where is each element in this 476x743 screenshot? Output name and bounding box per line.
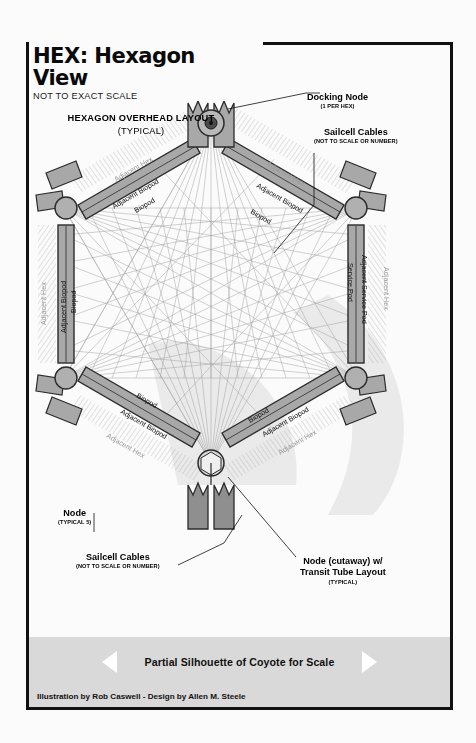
arm-label: Adjacent Service Pod [360,255,369,324]
credit-bar: Illustration by Rob Caswell - Design by … [29,686,450,707]
callout-qualifier: (NOT TO SCALE OR NUMBER) [314,138,398,145]
triangle-right-icon [362,651,377,673]
node-upper-left [36,161,82,219]
arm-label: Biopod [69,291,78,313]
illustration-sheet: Adjacent Hex Adjacent Biopod Biopod Adja… [0,0,476,743]
arm-label: Adjacent Biopod [59,281,68,333]
frame-bottom-rule [26,707,453,710]
triangle-left-icon [102,651,117,673]
callout-title: Node [58,508,91,519]
layout-caption-line2: (TYPICAL) [46,125,236,138]
page-subtitle: NOT TO EXACT SCALE [33,91,263,101]
callout-docking-node: Docking Node (1 PER HEX) [307,92,368,110]
scale-band: Partial Silhouette of Coyote for Scale [29,637,450,686]
callout-node: Node (TYPICAL 5) [58,508,91,526]
title-block: HEX: Hexagon View NOT TO EXACT SCALE [33,42,263,101]
arm-label: Adjacent Hex [39,282,48,325]
layout-caption: HEXAGON OVERHEAD LAYOUT (TYPICAL) [46,112,236,137]
callout-cutaway-node: Node (cutaway) w/ Transit Tube Layout (T… [300,556,386,586]
credit-text: Illustration by Rob Caswell - Design by … [29,692,245,701]
callout-qualifier: (1 PER HEX) [307,103,368,110]
node-lower-left [36,367,82,425]
callout-sailcell-cables-bottom: Sailcell Cables (NOT TO SCALE OR NUMBER) [76,552,160,570]
callout-title2: Transit Tube Layout [300,567,386,578]
arm-label: Service Pod [346,263,355,302]
callout-title: Sailcell Cables [314,127,398,138]
callout-sailcell-cables-top: Sailcell Cables (NOT TO SCALE OR NUMBER) [314,127,398,145]
callout-qualifier: (TYPICAL 5) [58,519,91,526]
callout-title: Node (cutaway) w/ [300,556,386,567]
frame-right-rule [450,42,453,710]
callout-qualifier: (TYPICAL) [300,579,386,586]
scale-band-label: Partial Silhouette of Coyote for Scale [145,656,335,668]
arm-label: Adjacent Hex [382,267,391,310]
page-title: HEX: Hexagon View [33,45,254,90]
arm-label: Biopod [133,196,157,215]
callout-qualifier: (NOT TO SCALE OR NUMBER) [76,563,160,570]
callout-title: Sailcell Cables [76,552,160,563]
layout-caption-line1: HEXAGON OVERHEAD LAYOUT [46,112,236,125]
callout-title: Docking Node [307,92,368,103]
